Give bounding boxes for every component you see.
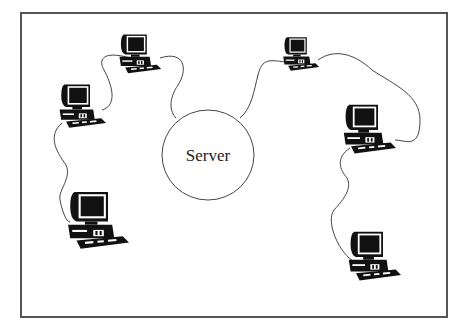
cable-server-to-topright: [240, 61, 285, 118]
computer-icon: [349, 232, 401, 281]
computer-icon: [283, 37, 319, 70]
computer-icon: [60, 85, 106, 128]
cable-topleft-to-server: [160, 56, 183, 118]
computer-icon: [344, 105, 396, 154]
cable-left-to-bottomleft: [54, 123, 70, 222]
server-label: Server: [186, 146, 231, 165]
server-node: Server: [162, 110, 254, 200]
computer-icon: [68, 192, 129, 249]
network-diagram: Server: [0, 0, 471, 330]
computer-icon: [119, 34, 161, 73]
